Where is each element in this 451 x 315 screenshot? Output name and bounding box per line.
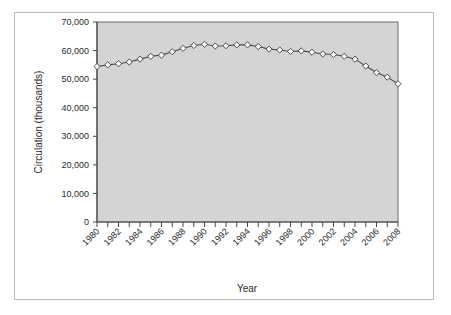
plot-background bbox=[97, 22, 398, 222]
x-axis-title: Year bbox=[237, 283, 258, 294]
x-tick-label: 1984 bbox=[123, 226, 144, 247]
x-tick-label: 2008 bbox=[381, 226, 402, 247]
x-tick-label: 1998 bbox=[274, 226, 295, 247]
line-chart: 010,00020,00030,00040,00050,00060,00070,… bbox=[0, 0, 451, 315]
x-tick-label: 1986 bbox=[145, 226, 166, 247]
x-tick-label: 1980 bbox=[80, 226, 101, 247]
x-axis-tick-labels: 1980198219841986198819901992199419961998… bbox=[80, 226, 402, 247]
x-tick-label: 1992 bbox=[209, 226, 230, 247]
x-tick-label: 1990 bbox=[188, 226, 209, 247]
y-tick-label: 10,000 bbox=[61, 189, 89, 199]
x-tick-label: 2004 bbox=[338, 226, 359, 247]
figure: 010,00020,00030,00040,00050,00060,00070,… bbox=[0, 0, 451, 315]
y-tick-label: 30,000 bbox=[61, 131, 89, 141]
x-tick-label: 1982 bbox=[102, 226, 123, 247]
x-tick-label: 2006 bbox=[360, 226, 381, 247]
x-tick-label: 2002 bbox=[317, 226, 338, 247]
x-tick-label: 1988 bbox=[166, 226, 187, 247]
y-axis-tick-labels: 010,00020,00030,00040,00050,00060,00070,… bbox=[61, 17, 89, 227]
y-tick-label: 50,000 bbox=[61, 74, 89, 84]
y-tick-label: 40,000 bbox=[61, 103, 89, 113]
y-axis-title: Circulation (thousands) bbox=[33, 71, 44, 174]
y-tick-label: 20,000 bbox=[61, 160, 89, 170]
plot-area bbox=[97, 22, 398, 222]
y-tick-label: 70,000 bbox=[61, 17, 89, 27]
x-tick-label: 2000 bbox=[295, 226, 316, 247]
x-tick-label: 1996 bbox=[252, 226, 273, 247]
y-tick-label: 0 bbox=[84, 217, 89, 227]
x-axis-ticks bbox=[97, 222, 398, 227]
y-tick-label: 60,000 bbox=[61, 46, 89, 56]
x-tick-label: 1994 bbox=[231, 226, 252, 247]
